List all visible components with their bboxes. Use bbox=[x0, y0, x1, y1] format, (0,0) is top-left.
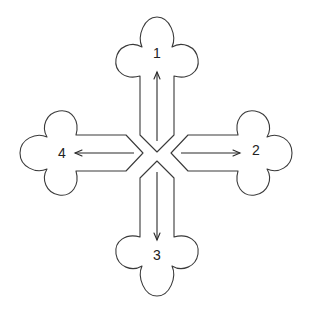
arm-2: 2 bbox=[171, 111, 292, 195]
arm-2-label: 2 bbox=[252, 142, 260, 158]
arm-4: 4 bbox=[20, 111, 143, 195]
arm-1-label: 1 bbox=[153, 45, 161, 61]
arm-3-label: 3 bbox=[153, 247, 161, 263]
arm-3: 3 bbox=[116, 161, 198, 296]
arm-4-label: 4 bbox=[58, 145, 66, 161]
arm-1: 1 bbox=[116, 17, 198, 152]
cross-flow-diagram: 1 3 4 2 bbox=[0, 0, 309, 317]
